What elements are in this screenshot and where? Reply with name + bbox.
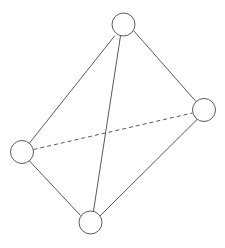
edge-left-right-hidden-dashed [34,113,193,150]
edge-top-left [30,36,116,144]
node-right[interactable] [193,99,216,122]
diagram-canvas [0,0,225,248]
edge-layer [30,31,198,217]
node-left[interactable] [11,141,34,164]
node-top[interactable] [112,13,135,36]
node-layer [11,13,216,234]
graph-svg [0,0,225,248]
edge-top-right [134,31,197,102]
edge-right-bottom [100,120,197,217]
node-bottom[interactable] [79,211,102,234]
edge-left-bottom [30,161,81,216]
edge-top-bottom [94,36,121,211]
